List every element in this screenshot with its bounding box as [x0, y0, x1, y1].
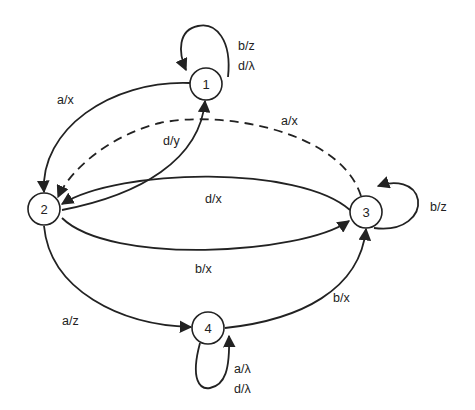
svg-text:1: 1: [202, 77, 209, 92]
label-e24: a/z: [62, 314, 79, 328]
edge-2-4: [44, 226, 191, 327]
label-loop1-bz: b/z: [238, 39, 255, 53]
label-e12: a/x: [57, 93, 74, 107]
state-2: 2: [28, 193, 60, 225]
label-e32-dashed: a/x: [281, 114, 298, 128]
edge-4-3: [225, 229, 366, 328]
label-loop4-al: a/λ: [234, 362, 251, 376]
state-1: 1: [190, 68, 222, 100]
edge-2-3: [62, 218, 349, 250]
state-3: 3: [350, 196, 382, 228]
label-loop4-dl: d/λ: [234, 382, 251, 396]
svg-text:3: 3: [362, 205, 369, 220]
label-e43: b/x: [333, 291, 350, 305]
state-4: 4: [192, 312, 224, 344]
label-loop1-dl: d/λ: [238, 59, 255, 73]
label-e23: b/x: [195, 262, 212, 276]
svg-text:2: 2: [40, 202, 47, 217]
edge-3-2-dashed: [58, 119, 361, 197]
svg-text:4: 4: [204, 321, 211, 336]
label-loop3: b/z: [430, 200, 447, 214]
label-e32: d/x: [205, 192, 222, 206]
label-e21: d/y: [163, 134, 180, 148]
state-diagram: 1 2 3 4 b/z d/λ a/x d/y a/x d/x b/x b/z …: [0, 0, 475, 410]
